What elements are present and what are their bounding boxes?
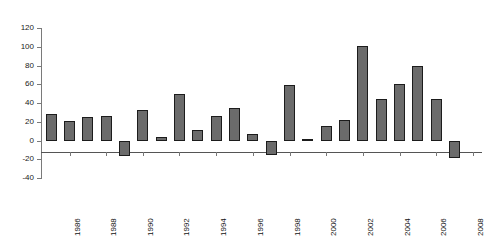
x-axis-tick xyxy=(436,152,437,156)
bar xyxy=(211,116,222,140)
x-axis-tick xyxy=(400,152,401,156)
x-axis-tick-label: 1996 xyxy=(257,218,265,236)
bar xyxy=(247,134,258,141)
y-axis-tick xyxy=(37,178,42,179)
bar xyxy=(266,141,277,155)
y-axis-tick-label: 40 xyxy=(0,99,34,107)
bar xyxy=(284,85,295,140)
bar xyxy=(137,110,148,141)
bar xyxy=(431,99,442,140)
x-axis-tick-label: 1988 xyxy=(110,218,118,236)
bar xyxy=(192,130,203,140)
bar-chart: 120100806040200-20-40 198619881990199219… xyxy=(0,0,487,241)
x-axis-tick-label: 1994 xyxy=(220,218,228,236)
y-axis-tick-label: -20 xyxy=(0,155,34,163)
x-axis-tick xyxy=(363,152,364,156)
x-axis-tick-label: 1986 xyxy=(74,218,82,236)
x-axis-tick xyxy=(253,152,254,156)
bar xyxy=(64,121,75,141)
y-axis-tick-label: 0 xyxy=(0,137,34,145)
x-axis-tick-label: 2008 xyxy=(477,218,485,236)
bar xyxy=(357,46,368,141)
x-axis-tick xyxy=(216,152,217,156)
bar xyxy=(321,126,332,140)
bar-series xyxy=(42,28,482,178)
y-axis-tick-label: 100 xyxy=(0,43,34,51)
x-axis-tick-label: 1990 xyxy=(147,218,155,236)
y-axis-tick-label: 60 xyxy=(0,80,34,88)
bar xyxy=(174,94,185,141)
y-axis-tick-label: -40 xyxy=(0,174,34,182)
bar xyxy=(339,120,350,141)
bar xyxy=(449,141,460,159)
bar xyxy=(82,117,93,140)
x-axis-tick xyxy=(70,152,71,156)
x-axis-tick-label: 1998 xyxy=(294,218,302,236)
x-axis-tick xyxy=(106,152,107,156)
x-axis-tick xyxy=(326,152,327,156)
x-axis-tick xyxy=(290,152,291,156)
x-axis-tick-label: 2006 xyxy=(440,218,448,236)
x-axis-tick xyxy=(179,152,180,156)
bar xyxy=(302,139,313,141)
bar xyxy=(376,99,387,140)
bar xyxy=(101,116,112,140)
bar xyxy=(119,141,130,157)
x-axis-tick-label: 2000 xyxy=(330,218,338,236)
x-axis-tick xyxy=(143,152,144,156)
bar xyxy=(394,84,405,140)
x-axis-tick-label: 2002 xyxy=(367,218,375,236)
bar xyxy=(46,114,57,140)
x-axis-tick xyxy=(473,152,474,156)
y-axis-tick-label: 80 xyxy=(0,62,34,70)
x-axis-tick-label: 1992 xyxy=(183,218,191,236)
x-axis-tick-label: 2004 xyxy=(404,218,412,236)
bar xyxy=(156,137,167,141)
bar xyxy=(412,66,423,141)
y-axis-tick-label: 20 xyxy=(0,118,34,126)
bar xyxy=(229,108,240,141)
y-axis-tick-label: 120 xyxy=(0,24,34,32)
